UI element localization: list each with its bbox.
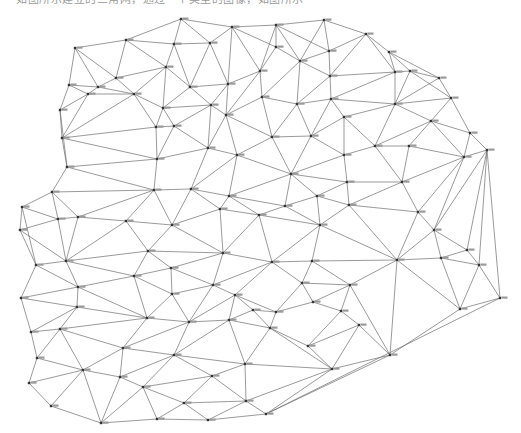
node-label: [349, 181, 355, 183]
network-edge: [208, 401, 246, 420]
network-node: [328, 50, 337, 53]
network-node: [87, 93, 96, 96]
node-label: [472, 132, 478, 134]
network-edge: [285, 174, 291, 206]
network-edge: [22, 207, 36, 265]
network-edge: [220, 209, 259, 215]
node-marker-icon: [265, 413, 267, 415]
node-label: [315, 301, 321, 303]
node-marker-icon: [252, 309, 254, 311]
network-edge: [52, 192, 58, 219]
node-label: [489, 149, 495, 151]
node-label: [103, 422, 109, 424]
node-label: [333, 98, 339, 100]
node-marker-icon: [77, 216, 79, 218]
node-label: [38, 264, 44, 266]
network-node: [478, 264, 487, 267]
node-marker-icon: [66, 166, 68, 168]
node-marker-icon: [401, 181, 403, 183]
node-label: [215, 284, 221, 286]
network-edge: [434, 157, 464, 230]
node-label: [125, 347, 131, 349]
node-marker-icon: [209, 42, 211, 44]
network-edge: [116, 40, 126, 78]
network-edge: [29, 358, 37, 383]
node-marker-icon: [433, 229, 435, 231]
node-label: [118, 77, 124, 79]
node-label: [411, 145, 417, 147]
node-marker-icon: [228, 319, 230, 321]
network-edge: [210, 43, 228, 84]
node-label: [436, 229, 442, 231]
node-label: [228, 114, 234, 116]
network-edge: [389, 52, 439, 78]
node-label: [343, 310, 349, 312]
node-marker-icon: [466, 249, 468, 251]
network-edge: [409, 121, 431, 146]
node-label: [313, 135, 319, 137]
network-edge: [331, 72, 395, 99]
node-marker-icon: [365, 33, 367, 35]
network-node: [388, 51, 397, 54]
node-label: [334, 368, 340, 370]
node-label: [331, 50, 337, 52]
network-edge: [134, 251, 148, 276]
node-label: [33, 331, 39, 333]
network-edge: [172, 225, 223, 253]
node-marker-icon: [275, 311, 277, 313]
network-edge: [434, 230, 467, 250]
network-edge: [37, 358, 83, 370]
network-edge: [22, 207, 58, 219]
node-marker-icon: [389, 354, 391, 356]
node-label: [60, 218, 66, 220]
node-label: [186, 402, 192, 404]
network-edge: [259, 215, 272, 262]
network-edge: [349, 182, 402, 205]
network-node: [433, 229, 442, 232]
network-node: [188, 321, 197, 324]
network-edge: [98, 87, 134, 94]
network-edge: [317, 182, 347, 196]
network-node: [59, 109, 68, 112]
node-marker-icon: [301, 282, 303, 284]
node-marker-icon: [125, 220, 127, 222]
network-node: [210, 104, 219, 107]
network-edge: [77, 287, 78, 307]
node-label: [210, 419, 216, 421]
network-edge: [329, 34, 366, 51]
network-node: [28, 382, 37, 385]
network-edge: [487, 150, 500, 298]
node-label: [319, 195, 325, 197]
node-label: [214, 375, 220, 377]
node-label: [278, 311, 284, 313]
network-node: [173, 125, 182, 128]
network-node: [417, 211, 426, 214]
network-edge: [302, 261, 312, 283]
network-node: [450, 97, 459, 100]
network-edge: [208, 105, 211, 148]
node-label: [264, 96, 270, 98]
node-label: [412, 70, 418, 72]
network-node: [211, 375, 220, 378]
node-marker-icon: [189, 86, 191, 88]
network-edge: [260, 25, 276, 71]
node-marker-icon: [115, 77, 117, 79]
network-node: [374, 145, 383, 148]
network-node: [271, 136, 280, 139]
node-label: [322, 224, 328, 226]
network-node: [358, 324, 367, 327]
node-marker-icon: [231, 26, 233, 28]
node-marker-icon: [155, 126, 157, 128]
node-marker-icon: [330, 98, 332, 100]
network-edge: [460, 265, 479, 309]
node-label: [255, 309, 261, 311]
network-edge: [191, 189, 229, 196]
node-marker-icon: [100, 422, 102, 424]
network-edge: [397, 212, 418, 260]
node-marker-icon: [394, 103, 396, 105]
node-label: [145, 386, 151, 388]
network-edge: [270, 328, 332, 369]
node-label: [193, 188, 199, 190]
node-marker-icon: [463, 156, 465, 158]
network-edge: [157, 419, 208, 420]
